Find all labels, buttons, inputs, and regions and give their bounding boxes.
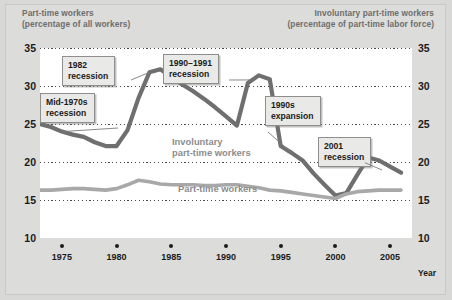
leader-line [62,128,118,132]
leader-line [268,132,292,153]
chart-figure: Part-time workers (percentage of all wor… [0,0,452,300]
leader-line [131,72,149,80]
leader-line [365,163,382,170]
annotation-leader-lines [0,0,452,300]
